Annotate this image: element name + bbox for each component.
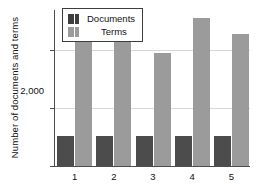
- x-tick-label: 5: [229, 172, 234, 182]
- dark-pair-swatch-icon: [68, 14, 82, 24]
- bar-terms-1: [75, 33, 92, 166]
- bar-documents-3: [136, 136, 153, 166]
- bar-documents-4: [175, 136, 192, 166]
- bar-terms-4: [193, 18, 210, 166]
- x-tick-label: 1: [72, 172, 77, 182]
- x-tick-label: 4: [190, 172, 195, 182]
- bar-documents-5: [214, 136, 231, 166]
- bar-terms-2: [114, 33, 131, 166]
- light-pair-swatch-icon: [68, 27, 82, 37]
- legend-label-terms: Terms: [87, 27, 127, 37]
- bar-terms-3: [154, 53, 171, 166]
- chart-legend: Documents Terms: [62, 8, 143, 42]
- bar-chart: Number of documents and terms 01,0002,00…: [0, 0, 257, 192]
- legend-item-terms: Terms: [68, 25, 135, 38]
- legend-item-documents: Documents: [68, 12, 135, 25]
- y-tick-mark: 1,000: [50, 108, 54, 109]
- y-tick-label: 2,000: [20, 86, 44, 96]
- legend-label-documents: Documents: [87, 14, 135, 24]
- y-axis-title: Number of documents and terms: [9, 8, 20, 168]
- bar-documents-2: [96, 136, 113, 166]
- x-axis-line: [54, 166, 250, 167]
- y-axis-line: [54, 10, 55, 167]
- bar-terms-5: [232, 34, 249, 166]
- y-tick-mark: 0: [50, 166, 54, 167]
- x-tick-label: 3: [150, 172, 155, 182]
- x-tick-label: 2: [111, 172, 116, 182]
- y-tick-mark: 2,000: [50, 50, 54, 51]
- bar-documents-1: [57, 136, 74, 166]
